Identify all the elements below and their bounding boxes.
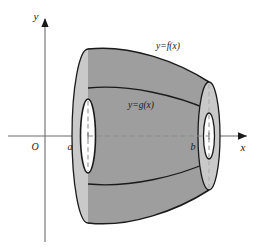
figure-container: y x O a b y=f(x) y=g(x): [0, 0, 262, 250]
upper-limit-label-b: b: [191, 141, 196, 152]
solid-of-revolution-figure: y x O a b y=f(x) y=g(x): [0, 0, 262, 250]
y-axis-label: y: [33, 10, 39, 22]
inner-curve-label-g: y=g(x): [127, 100, 154, 111]
lower-limit-label-a: a: [68, 141, 73, 152]
origin-label: O: [31, 141, 38, 152]
x-axis-label: x: [240, 141, 246, 153]
outer-curve-label-f: y=f(x): [155, 41, 180, 52]
